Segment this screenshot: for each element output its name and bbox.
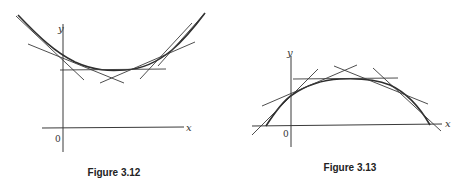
- origin-label: 0: [283, 129, 289, 139]
- figures-canvas: y x 0 Figure 3.12 y x 0 Figure 3.13: [0, 0, 463, 185]
- y-axis-label: y: [57, 23, 64, 34]
- figure-caption: Figure 3.13: [324, 162, 377, 173]
- tangent-line: [16, 16, 84, 80]
- tangent-line: [158, 13, 205, 66]
- x-axis-label: x: [186, 122, 192, 133]
- tangent-line-horizontal: [60, 69, 166, 70]
- y-axis-label: y: [286, 47, 293, 58]
- tangent-line: [100, 42, 195, 83]
- tangent-line: [28, 44, 124, 83]
- origin-label: 0: [55, 134, 61, 144]
- tangent-line: [334, 66, 428, 104]
- tangent-line: [262, 65, 357, 106]
- figure-caption: Figure 3.12: [88, 167, 141, 178]
- convex-curve: [18, 13, 205, 70]
- tangent-line: [140, 23, 192, 79]
- figure-3-12: y x 0 Figure 3.12: [16, 13, 205, 178]
- x-axis: [252, 124, 442, 126]
- tangent-line: [373, 68, 441, 131]
- x-axis-label: x: [445, 118, 451, 129]
- figure-3-13: y x 0 Figure 3.13: [252, 47, 451, 173]
